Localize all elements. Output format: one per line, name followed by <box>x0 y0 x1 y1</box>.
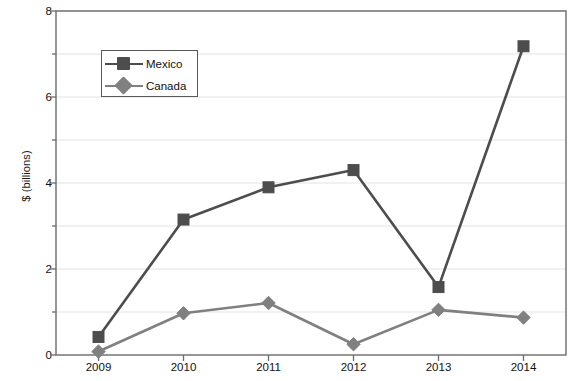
legend-label: Canada <box>146 80 186 92</box>
diamond-marker-icon <box>114 76 132 94</box>
legend-swatch <box>102 54 146 74</box>
data-point-marker <box>347 338 360 351</box>
legend-label: Mexico <box>146 58 182 70</box>
legend-swatch <box>102 76 146 96</box>
data-point-marker <box>262 296 275 309</box>
legend-item-canada[interactable]: Canada <box>102 74 199 97</box>
data-point-marker <box>93 331 104 342</box>
data-point-marker <box>177 307 190 320</box>
data-point-marker <box>433 282 444 293</box>
square-marker-icon <box>117 57 130 70</box>
data-point-marker <box>518 41 529 52</box>
data-point-marker <box>263 182 274 193</box>
data-point-marker <box>432 303 445 316</box>
legend[interactable]: MexicoCanada <box>101 50 198 97</box>
data-point-marker <box>92 345 105 358</box>
data-point-marker <box>178 214 189 225</box>
series-canada <box>92 296 530 358</box>
legend-item-mexico[interactable]: Mexico <box>102 52 199 75</box>
plot-area <box>0 0 571 381</box>
data-point-marker <box>517 311 530 324</box>
data-point-marker <box>348 165 359 176</box>
line-chart: $ (billions) 02468 200920102011201220132… <box>0 0 571 381</box>
series-line <box>99 303 524 352</box>
